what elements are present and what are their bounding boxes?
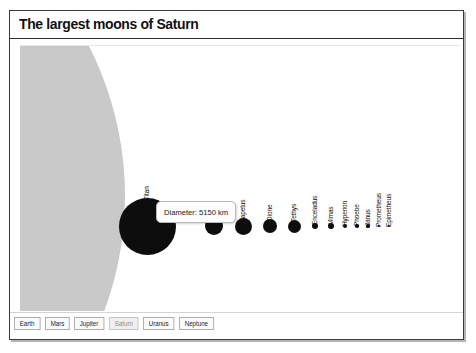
moon-label: Mimas	[327, 207, 334, 226]
moon-label: Hyperion	[341, 201, 348, 226]
moon-circle[interactable]	[263, 219, 277, 233]
moon-label: Prometheus	[375, 193, 382, 227]
page-title: The largest moons of Saturn	[19, 15, 198, 33]
tab-strip: EarthMarsJupiterSaturnUranusNeptune	[14, 317, 215, 330]
tab-mars[interactable]: Mars	[45, 317, 70, 330]
moon-circle[interactable]	[235, 218, 252, 235]
chart-plot-area[interactable]: TitanRheaIapetusDioneTethysEnceladusMima…	[20, 45, 460, 311]
moon-label: Enceladus	[311, 195, 318, 224]
saturn-planet-disc	[20, 45, 125, 311]
tab-jupiter[interactable]: Jupiter	[74, 317, 104, 330]
moon-label: Iapetus	[239, 199, 246, 219]
chart-panel: TitanRheaIapetusDioneTethysEnceladusMima…	[10, 40, 463, 313]
moon-label: Phoebe	[353, 205, 360, 227]
moon-label: Titan	[143, 186, 150, 200]
tooltip: Diameter: 5150 km	[156, 201, 236, 223]
tab-neptune[interactable]: Neptune	[179, 317, 214, 330]
tooltip-text: Diameter: 5150 km	[164, 208, 228, 217]
title-bar: The largest moons of Saturn	[10, 11, 463, 39]
tab-bar: EarthMarsJupiterSaturnUranusNeptune	[10, 312, 463, 339]
moon-label: Tethys	[290, 203, 297, 221]
moon-label: Dione	[266, 205, 273, 221]
moon-label: Epimetheus	[385, 194, 392, 227]
tab-saturn[interactable]: Saturn	[109, 317, 139, 330]
moon-label: Janus	[364, 210, 371, 227]
tab-uranus[interactable]: Uranus	[143, 317, 174, 330]
tab-earth[interactable]: Earth	[14, 317, 40, 330]
app-window: The largest moons of Saturn TitanRheaIap…	[9, 10, 464, 340]
